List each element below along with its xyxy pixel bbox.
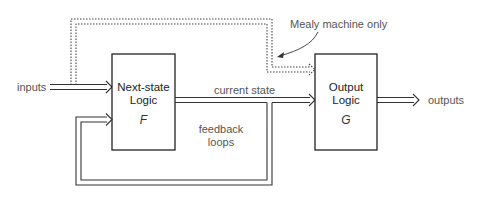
mealy-path-dotted — [71, 19, 315, 85]
feedback-label-line2: loops — [208, 136, 235, 148]
outputs-arrow — [377, 94, 419, 106]
mealy-note-label: Mealy machine only — [290, 18, 388, 30]
inputs-arrow — [50, 81, 112, 93]
current-state-label: current state — [214, 84, 275, 96]
output-label-line1: Output — [329, 81, 364, 93]
output-function-g: G — [341, 113, 350, 127]
next-state-function-f: F — [140, 113, 148, 127]
next-state-label-line1: Next-state — [117, 81, 169, 93]
output-label-line2: Logic — [332, 94, 360, 106]
next-state-label-line2: Logic — [130, 94, 158, 106]
feedback-label-line1: feedback — [199, 123, 244, 135]
outputs-label: outputs — [428, 94, 465, 106]
inputs-label: inputs — [17, 81, 47, 93]
mealy-annotation-arrow — [277, 32, 318, 58]
fsm-diagram: Mealy machine only inputs Next-state Log… — [0, 0, 482, 199]
